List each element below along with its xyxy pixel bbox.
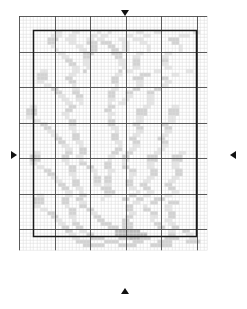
center-marker-bottom-icon bbox=[121, 288, 129, 294]
center-marker-top-icon bbox=[121, 10, 129, 16]
cross-stitch-chart-page bbox=[0, 0, 247, 309]
center-marker-right-icon bbox=[230, 151, 236, 159]
center-marker-left-icon bbox=[11, 151, 17, 159]
pattern-chart bbox=[19, 16, 225, 288]
stitch-grid-canvas bbox=[19, 16, 225, 288]
chart-caption bbox=[14, 297, 134, 306]
